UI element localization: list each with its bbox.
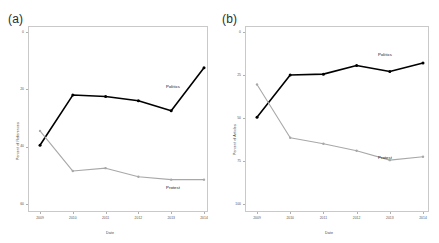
panel-a-protest-point (137, 176, 139, 178)
panel-a-x-tickmark (138, 212, 139, 214)
panel-b-y-tickmark (243, 75, 245, 76)
panel-b-protest-point (322, 143, 324, 145)
panel-b-politics-point (355, 64, 358, 67)
panel-b-x-tick-label: 2013 (380, 216, 400, 220)
panel-a-politics-point (137, 99, 140, 102)
panel-a-x-tickmark (106, 212, 107, 214)
panel-b-protest-point (355, 149, 357, 151)
panel-a-protest-point (39, 130, 41, 132)
panel-a-y-tickmark (26, 147, 28, 148)
panel-a-x-tick-label: 2009 (30, 216, 50, 220)
panel-b-protest-line (257, 84, 423, 160)
panel-a-politics-line (40, 68, 204, 145)
panel-b-x-tick-label: 2009 (247, 216, 267, 220)
panel-b-protest-point (256, 83, 258, 85)
panel-b-y-tick-label: 100 (225, 202, 241, 206)
panel-a-protest-label: Protest (166, 185, 180, 190)
panel-b-y-tickmark (243, 204, 245, 205)
panel-b-x-tickmark (323, 212, 324, 214)
panel-b-y-tickmark (243, 118, 245, 119)
panel-a-y-tickmark (26, 89, 28, 90)
panel-a-x-tick-label: 2011 (96, 216, 116, 220)
panel-a-politics-point (203, 66, 206, 69)
panel-b-x-tickmark (423, 212, 424, 214)
panel-a-y-tick-label: 20 (8, 87, 24, 91)
panel-a-series-layer (0, 0, 219, 243)
panel-b-protest-point (422, 156, 424, 158)
panel-b-y-tick-label: 0 (225, 30, 241, 34)
panel-b-series-layer (219, 0, 439, 243)
panel-a-protest-point (203, 178, 205, 180)
panel-a-politics-point (39, 144, 42, 147)
panel-b-protest-point (289, 137, 291, 139)
panel-a-x-tick-label: 2013 (161, 216, 181, 220)
panel-a-x-tickmark (204, 212, 205, 214)
panel-a-y-tickmark (26, 32, 28, 33)
panel-a-protest-point (72, 170, 74, 172)
panel-a-politics-point (104, 95, 107, 98)
panel-a-x-tick-label: 2012 (128, 216, 148, 220)
caption-strip (0, 229, 439, 243)
panel-b-x-tick-label: 2012 (347, 216, 367, 220)
panel-a-politics-label: Politics (166, 84, 180, 89)
panel-a-protest-point (104, 167, 106, 169)
panel-b-politics-point (322, 73, 325, 76)
panel-b-protest-label: Protest (378, 155, 392, 160)
panel-b-politics-point (289, 74, 292, 77)
figure-container: (a) Percent of References Date Politics … (0, 0, 439, 243)
panel-a-y-tick-label: 40 (8, 144, 24, 148)
panel-a-x-tickmark (40, 212, 41, 214)
panel-a-x-tick-label: 2014 (194, 216, 214, 220)
panel-a-x-tick-label: 2010 (63, 216, 83, 220)
panel-b-y-tickmark (243, 161, 245, 162)
panel-a-politics-point (71, 94, 74, 97)
panel-b-politics-point (256, 116, 259, 119)
panel-b-y-tickmark (243, 32, 245, 33)
panel-a-y-tick-label: 0 (8, 30, 24, 34)
panel-a-protest-point (170, 178, 172, 180)
panel-a: (a) Percent of References Date Politics … (0, 0, 219, 243)
panel-b-x-tickmark (390, 212, 391, 214)
panel-b-x-tickmark (357, 212, 358, 214)
panel-b-politics-label: Politics (378, 52, 392, 57)
panel-b-x-tick-label: 2010 (280, 216, 300, 220)
panel-b-x-tickmark (257, 212, 258, 214)
panel-a-x-tickmark (171, 212, 172, 214)
panel-a-protest-line (40, 131, 204, 180)
panel-a-y-tick-label: 60 (8, 202, 24, 206)
panel-b-politics-line (257, 63, 423, 117)
panel-b-x-tick-label: 2011 (313, 216, 333, 220)
panel-b-x-tick-label: 2014 (413, 216, 433, 220)
panel-a-x-tickmark (73, 212, 74, 214)
panel-b-y-tick-label: 50 (225, 116, 241, 120)
panel-b-y-tick-label: 25 (225, 73, 241, 77)
panel-b: (b) Percent of Articles Date Politics Pr… (219, 0, 439, 243)
panel-b-x-tickmark (290, 212, 291, 214)
panel-b-politics-point (422, 61, 425, 64)
panel-a-politics-point (170, 109, 173, 112)
panel-a-y-tickmark (26, 204, 28, 205)
panel-b-politics-point (388, 70, 391, 73)
panel-b-y-tick-label: 75 (225, 159, 241, 163)
